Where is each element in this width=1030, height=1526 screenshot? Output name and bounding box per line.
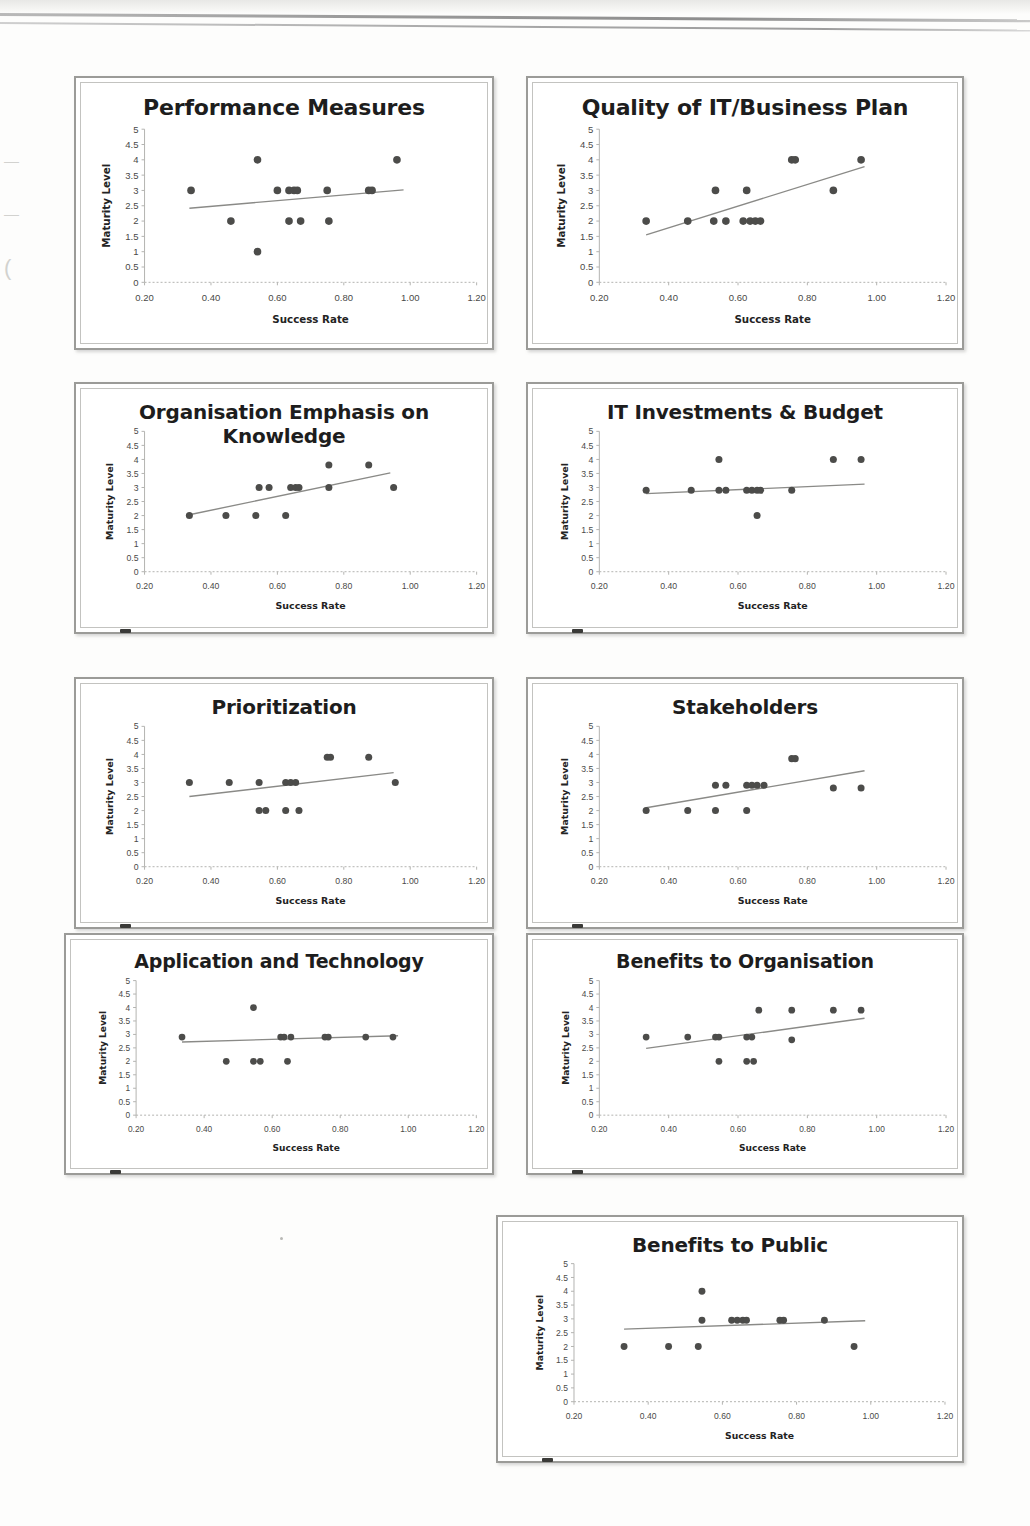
y-tick-label: 2 xyxy=(134,511,139,521)
y-tick-label: 1 xyxy=(589,1083,594,1093)
x-tick-label: 0.80 xyxy=(798,292,817,303)
x-tick-label: 1.00 xyxy=(402,581,419,591)
x-tick-label: 1.20 xyxy=(937,1411,954,1421)
y-tick-label: 2 xyxy=(588,511,593,521)
y-tick-label: 3.5 xyxy=(582,1016,594,1026)
panel-corner-smudge xyxy=(572,629,583,633)
y-tick-label: 0.5 xyxy=(126,848,138,858)
chart-panel-benefits-to-organisation: Benefits to Organisation00.511.522.533.5… xyxy=(526,933,964,1175)
data-point xyxy=(757,487,764,494)
y-tick-label: 0.5 xyxy=(126,553,138,563)
chart-plot-area-organisation-emphasis-on-knowledge: Organisation Emphasis on Knowledge00.511… xyxy=(80,388,488,628)
chart-plot-area-it-investments-and-budget: IT Investments & Budget00.511.522.533.54… xyxy=(532,388,958,628)
y-tick-label: 1.5 xyxy=(582,1070,594,1080)
panel-corner-smudge xyxy=(572,1170,583,1174)
trendline-benefits-to-organisation xyxy=(646,1018,864,1048)
data-point xyxy=(257,1058,264,1065)
y-tick-label: 3.5 xyxy=(581,764,593,774)
data-point xyxy=(266,484,273,491)
x-tick-label: 0.80 xyxy=(335,876,352,886)
x-tick-label: 1.00 xyxy=(400,1124,417,1134)
data-point xyxy=(643,1034,650,1041)
y-tick-label: 5 xyxy=(588,721,593,731)
chart-plot-area-benefits-to-organisation: Benefits to Organisation00.511.522.533.5… xyxy=(532,939,958,1169)
data-point xyxy=(393,156,401,164)
chart-plot-area-quality-of-it-business-plan: Quality of IT/Business Plan00.511.522.53… xyxy=(532,82,958,344)
data-point xyxy=(186,779,193,786)
y-tick-label: 3.5 xyxy=(118,1016,130,1026)
data-point xyxy=(710,217,718,225)
x-axis-title-quality-of-it-business-plan: Success Rate xyxy=(734,313,810,325)
data-point xyxy=(715,487,722,494)
x-tick-label: 0.20 xyxy=(591,876,608,886)
y-tick-label: 2.5 xyxy=(580,200,593,211)
chart-canvas-performance-measures: 00.511.522.533.544.550.200.400.600.801.0… xyxy=(81,83,488,344)
chart-canvas-stakeholders: 00.511.522.533.544.550.200.400.600.801.0… xyxy=(533,684,958,923)
x-tick-label: 0.60 xyxy=(269,581,286,591)
y-axis-title-it-investments-and-budget: Maturity Level xyxy=(559,463,570,540)
x-tick-label: 1.00 xyxy=(862,1411,879,1421)
y-tick-label: 3.5 xyxy=(580,170,593,181)
y-tick-label: 1.5 xyxy=(118,1070,130,1080)
y-tick-label: 2.5 xyxy=(581,792,593,802)
chart-panel-quality-of-it-business-plan: Quality of IT/Business Plan00.511.522.53… xyxy=(526,76,964,350)
data-point xyxy=(712,187,720,195)
x-tick-label: 0.20 xyxy=(566,1411,583,1421)
y-axis-title-organisation-emphasis-on-knowledge: Maturity Level xyxy=(104,463,115,540)
chart-canvas-it-investments-and-budget: 00.511.522.533.544.550.200.400.600.801.0… xyxy=(533,389,958,628)
y-tick-label: 1.5 xyxy=(580,231,593,242)
x-tick-label: 1.00 xyxy=(868,876,885,886)
scatter-plot-grid: Performance Measures00.511.522.533.544.5… xyxy=(0,0,1030,1526)
y-tick-label: 5 xyxy=(589,976,594,986)
y-tick-label: 0 xyxy=(134,567,139,577)
data-point xyxy=(712,782,719,789)
y-tick-label: 0.5 xyxy=(556,1383,568,1393)
data-point xyxy=(830,1007,837,1014)
x-tick-label: 1.20 xyxy=(937,292,956,303)
chart-plot-area-prioritization: Prioritization00.511.522.533.544.550.200… xyxy=(80,683,488,923)
y-tick-label: 0.5 xyxy=(580,261,593,272)
chart-canvas-quality-of-it-business-plan: 00.511.522.533.544.550.200.400.600.801.0… xyxy=(533,83,958,344)
x-tick-label: 0.40 xyxy=(659,292,678,303)
data-point xyxy=(665,1343,672,1350)
data-point xyxy=(821,1317,828,1324)
y-tick-label: 5 xyxy=(134,721,139,731)
x-tick-label: 0.80 xyxy=(788,1411,805,1421)
y-tick-label: 2.5 xyxy=(125,200,138,211)
y-tick-label: 1 xyxy=(563,1369,568,1379)
data-point xyxy=(365,462,372,469)
y-axis-title-benefits-to-public: Maturity Level xyxy=(534,1295,545,1371)
y-tick-label: 4 xyxy=(134,455,139,465)
panel-corner-smudge xyxy=(542,1458,553,1462)
y-tick-label: 4 xyxy=(589,1003,594,1013)
data-point xyxy=(254,248,262,256)
data-point xyxy=(712,807,719,814)
data-point xyxy=(716,1058,723,1065)
x-axis-title-it-investments-and-budget: Success Rate xyxy=(738,600,808,611)
data-point xyxy=(274,187,282,195)
chart-panel-performance-measures: Performance Measures00.511.522.533.544.5… xyxy=(74,76,494,350)
data-point xyxy=(684,217,692,225)
y-axis-title-prioritization: Maturity Level xyxy=(104,758,115,835)
x-tick-label: 0.80 xyxy=(799,1124,816,1134)
chart-plot-area-application-and-technology: Application and Technology00.511.522.533… xyxy=(70,939,488,1169)
chart-plot-area-benefits-to-public: Benefits to Public00.511.522.533.544.550… xyxy=(502,1221,958,1457)
data-point xyxy=(285,217,293,225)
y-tick-label: 3 xyxy=(134,483,139,493)
data-point xyxy=(323,187,331,195)
data-point xyxy=(223,1058,230,1065)
y-tick-label: 1 xyxy=(134,539,139,549)
data-point xyxy=(754,512,761,519)
trendline-organisation-emphasis-on-knowledge xyxy=(189,473,390,515)
x-tick-label: 0.20 xyxy=(590,292,609,303)
y-tick-label: 3 xyxy=(588,483,593,493)
data-point xyxy=(252,512,259,519)
x-tick-label: 0.80 xyxy=(332,1124,349,1134)
y-tick-label: 4 xyxy=(563,1286,568,1296)
x-tick-label: 1.00 xyxy=(869,1124,886,1134)
y-tick-label: 4.5 xyxy=(125,139,138,150)
y-tick-label: 1 xyxy=(588,834,593,844)
x-tick-label: 1.20 xyxy=(938,1124,955,1134)
x-tick-label: 1.20 xyxy=(938,876,955,886)
x-tick-label: 1.00 xyxy=(867,292,886,303)
